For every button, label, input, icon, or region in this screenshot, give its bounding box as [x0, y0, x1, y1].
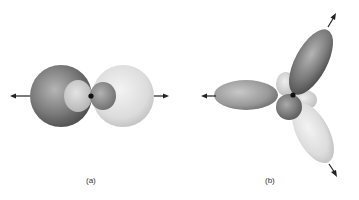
panel-a-sp-orbitals [10, 65, 169, 127]
large-left-lobe [214, 80, 278, 110]
nucleus-dot [290, 92, 295, 97]
small-lower-dark-lobe [276, 94, 302, 120]
panel-b-label: (b) [265, 176, 275, 185]
nucleus-dot [88, 93, 93, 98]
small-dark-lobe [90, 82, 116, 110]
panel-b-sp2-orbitals [201, 13, 343, 177]
panel-a-label: (a) [86, 176, 96, 185]
orbital-diagram [0, 0, 359, 200]
small-light-lobe [64, 80, 92, 112]
